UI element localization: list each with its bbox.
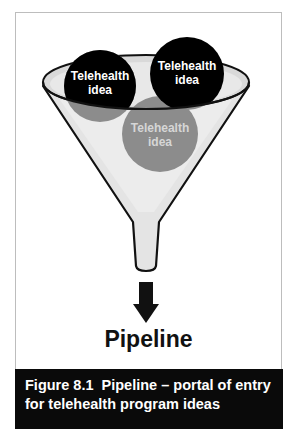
funnel-diagram: Telehealth idea Telehealth idea Teleheal…: [0, 0, 297, 431]
figure-caption: Figure 8.1 Pipeline – portal of entry fo…: [15, 369, 283, 429]
idea-bubble-right: Telehealth idea: [150, 37, 224, 111]
idea-left-line1: Telehealth: [71, 69, 129, 83]
pipeline-label: Pipeline: [15, 326, 282, 353]
idea-right-line2: idea: [175, 73, 199, 87]
idea-left-line2: idea: [88, 83, 112, 97]
arrow-down-icon: [133, 282, 159, 323]
idea-center-line1: Telehealth: [131, 121, 189, 135]
idea-center-line2: idea: [148, 135, 172, 149]
caption-line-1: Figure 8.1 Pipeline – portal of entry: [25, 376, 283, 395]
caption-line-2: for telehealth program ideas: [25, 395, 283, 414]
idea-right-line1: Telehealth: [158, 59, 216, 73]
